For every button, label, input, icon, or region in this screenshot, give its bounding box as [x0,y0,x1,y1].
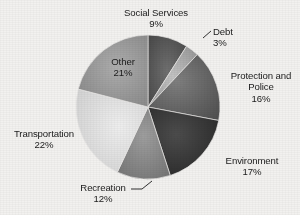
slice-label-pct-transportation: 22% [2,139,86,150]
slice-label-name-transportation: Transportation [2,128,86,139]
slice-label-recreation: Recreation 12% [64,182,142,205]
slice-label-name-protection-line1: Protection and [224,70,298,81]
pie-chart-svg [0,0,300,215]
slice-label-name-environment: Environment [210,155,294,166]
slice-label-name-debt: Debt [213,26,255,37]
slice-label-pct-environment: 17% [210,166,294,177]
slice-label-name-protection-line2: Police [224,81,298,92]
slice-label-pct-other: 21% [98,67,148,78]
pie-chart-figure: Social Services 9% Debt 3% Protection an… [0,0,300,215]
slice-label-social-services: Social Services 9% [108,7,204,30]
slice-label-name-social-services: Social Services [108,7,204,18]
slice-label-pct-recreation: 12% [64,193,142,204]
slice-label-pct-protection: 16% [224,93,298,104]
slice-label-other: Other 21% [98,56,148,79]
slice-label-environment: Environment 17% [210,155,294,178]
slice-label-pct-social-services: 9% [108,18,204,29]
leader-line-debt [203,31,211,38]
slice-label-name-other: Other [98,56,148,67]
slice-label-protection-and-police: Protection and Police 16% [224,70,298,104]
slice-label-transportation: Transportation 22% [2,128,86,151]
slice-label-debt: Debt 3% [213,26,255,49]
slice-label-pct-debt: 3% [213,37,255,48]
slice-label-name-recreation: Recreation [64,182,142,193]
